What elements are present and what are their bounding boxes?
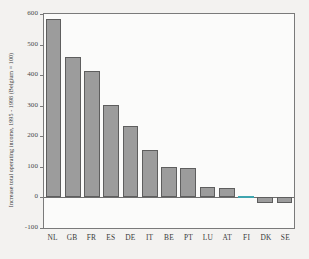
- y-axis-tick-label: 600: [27, 9, 38, 17]
- x-axis-label-es: ES: [101, 233, 120, 249]
- x-axis-label-de: DE: [121, 233, 140, 249]
- x-axis-label-it: IT: [140, 233, 159, 249]
- bar-at[interactable]: [219, 188, 235, 197]
- bar-be[interactable]: [161, 167, 177, 198]
- plot-frame: 6005004003002001000-100: [43, 13, 295, 229]
- bar-slot-fr: [82, 14, 101, 228]
- bar-slot-pt: [179, 14, 198, 228]
- x-axis-label-fi: FI: [237, 233, 256, 249]
- bar-slot-gb: [63, 14, 82, 228]
- bar-slot-nl: [44, 14, 63, 228]
- bar-gb[interactable]: [65, 57, 81, 197]
- x-axis-label-at: AT: [218, 233, 237, 249]
- bar-slot-es: [102, 14, 121, 228]
- x-axis-label-se: SE: [276, 233, 295, 249]
- x-axis-label-fr: FR: [82, 233, 101, 249]
- bar-de[interactable]: [123, 126, 139, 198]
- y-axis-tick-label: 400: [27, 70, 38, 78]
- bar-slot-fi: [236, 14, 255, 228]
- bar-pt[interactable]: [180, 168, 196, 197]
- bar-dk[interactable]: [257, 197, 273, 203]
- bar-nl[interactable]: [46, 19, 62, 198]
- x-axis-label-dk: DK: [256, 233, 275, 249]
- y-axis-tick-label: -100: [25, 223, 38, 231]
- bar-it[interactable]: [142, 150, 158, 197]
- y-axis-tick-label: 100: [27, 162, 38, 170]
- plot-area: 6005004003002001000-100: [44, 14, 294, 228]
- x-axis-label-be: BE: [159, 233, 178, 249]
- chart-figure: Increase total operating income, 1995 - …: [0, 0, 309, 259]
- bar-series: [44, 14, 294, 228]
- bar-fi[interactable]: [238, 196, 254, 198]
- y-axis-tick-label: 200: [27, 131, 38, 139]
- y-axis-title: Increase total operating income, 1995 - …: [8, 52, 14, 206]
- bar-lu[interactable]: [200, 187, 216, 198]
- bar-slot-lu: [198, 14, 217, 228]
- bar-slot-dk: [256, 14, 275, 228]
- y-axis-tick-label: 500: [27, 40, 38, 48]
- y-axis-tick-label: 300: [27, 101, 38, 109]
- x-axis-label-nl: NL: [43, 233, 62, 249]
- y-axis-tick-mark: [40, 228, 44, 229]
- x-axis-label-pt: PT: [179, 233, 198, 249]
- bar-fr[interactable]: [84, 71, 100, 197]
- x-axis-label-gb: GB: [62, 233, 81, 249]
- bar-es[interactable]: [103, 105, 119, 198]
- bar-slot-it: [140, 14, 159, 228]
- x-axis-labels: NLGBFRESDEITBEPTLUATFIDKSE: [43, 233, 295, 249]
- bar-se[interactable]: [277, 197, 293, 203]
- x-axis-label-lu: LU: [198, 233, 217, 249]
- bar-slot-be: [159, 14, 178, 228]
- bar-slot-at: [217, 14, 236, 228]
- bar-slot-de: [121, 14, 140, 228]
- bar-slot-se: [275, 14, 294, 228]
- y-axis-tick-label: 0: [34, 192, 38, 200]
